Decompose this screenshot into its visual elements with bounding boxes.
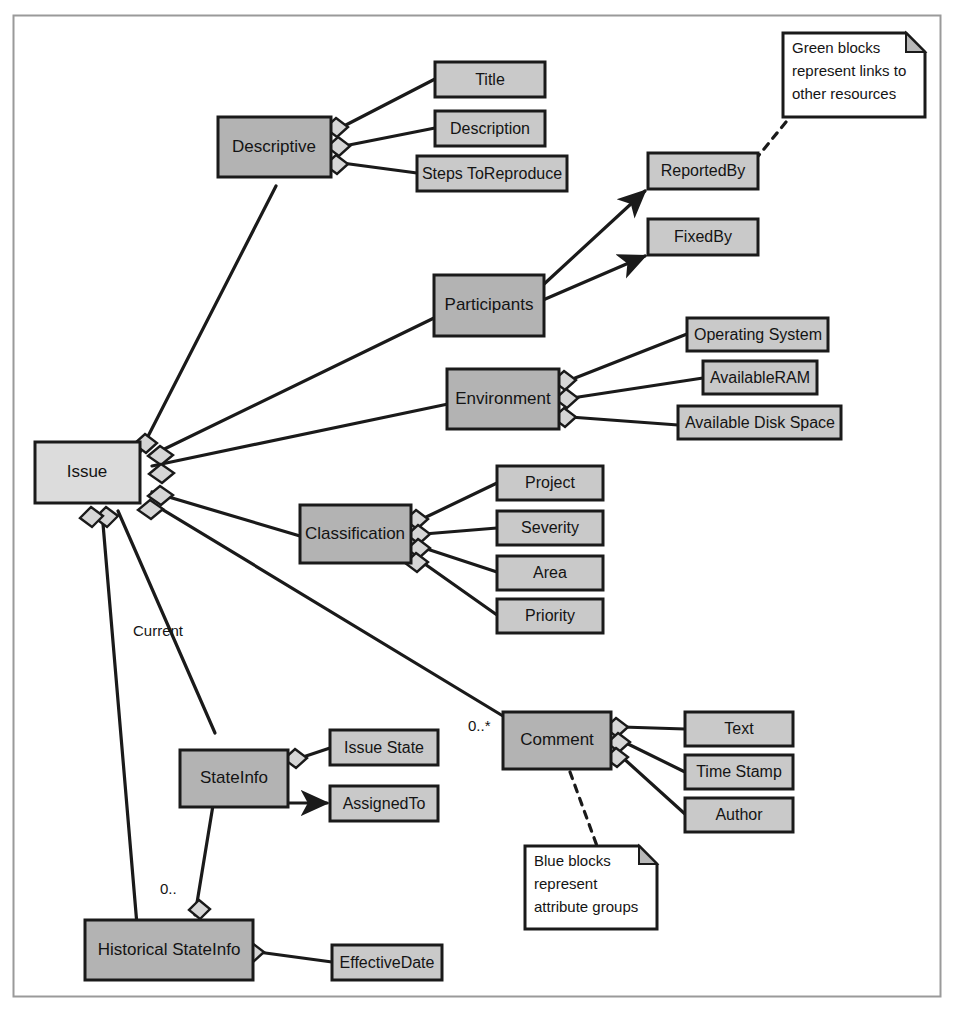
node-descriptive-label: Descriptive (232, 137, 316, 156)
attr-text-label: Text (724, 720, 754, 737)
note-green-line-3: other resources (792, 85, 896, 102)
node-historical-stateinfo[interactable]: Historical StateInfo (85, 920, 253, 980)
node-comment[interactable]: Comment (503, 712, 611, 769)
note-green[interactable]: Green blocks represent links to other re… (783, 33, 925, 117)
attr-effective-date[interactable]: EffectiveDate (332, 945, 442, 980)
attr-area-label: Area (533, 564, 567, 581)
link-assignedto-label: AssignedTo (343, 795, 426, 812)
note-green-line-1: Green blocks (792, 39, 880, 56)
edge-comment-text (622, 727, 685, 729)
attr-area[interactable]: Area (497, 556, 603, 590)
node-classification-label: Classification (305, 524, 405, 543)
note-blue-line-2: represent (534, 875, 598, 892)
attr-available-disk-space[interactable]: Available Disk Space (678, 406, 841, 439)
attr-text[interactable]: Text (685, 712, 793, 746)
attr-operating-system-label: Operating System (694, 326, 822, 343)
label-zero-to-many: 0..* (468, 717, 491, 734)
note-blue[interactable]: Blue blocks represent attribute groups (525, 846, 657, 929)
attr-time-stamp-label: Time Stamp (696, 763, 782, 780)
attr-title[interactable]: Title (435, 62, 545, 97)
attr-issue-state-label: Issue State (344, 739, 424, 756)
attr-priority[interactable]: Priority (497, 599, 603, 633)
attr-time-stamp[interactable]: Time Stamp (685, 755, 793, 789)
link-assignedto[interactable]: AssignedTo (330, 786, 438, 821)
attr-steps-to-reproduce[interactable]: Steps ToReproduce (417, 156, 567, 191)
node-participants-label: Participants (445, 295, 534, 314)
diagram-svg: Issue Descriptive Participants Environme… (0, 0, 954, 1013)
attr-available-disk-space-label: Available Disk Space (685, 414, 835, 431)
attr-available-ram-label: AvailableRAM (710, 369, 810, 386)
link-fixedby[interactable]: FixedBy (648, 219, 758, 255)
attr-title-label: Title (475, 71, 505, 88)
node-descriptive[interactable]: Descriptive (218, 117, 331, 177)
note-blue-line-1: Blue blocks (534, 852, 611, 869)
attr-issue-state[interactable]: Issue State (330, 730, 438, 765)
attr-author[interactable]: Author (685, 798, 793, 832)
attr-description-label: Description (450, 120, 530, 137)
attr-effective-date-label: EffectiveDate (340, 954, 435, 971)
link-reportedby[interactable]: ReportedBy (648, 153, 758, 189)
attr-author-label: Author (715, 806, 763, 823)
link-fixedby-label: FixedBy (674, 228, 732, 245)
attr-steps-to-reproduce-label: Steps ToReproduce (422, 165, 562, 182)
label-zero-dot: 0.. (160, 880, 177, 897)
node-participants[interactable]: Participants (434, 275, 544, 336)
attr-priority-label: Priority (525, 607, 575, 624)
attr-severity-label: Severity (521, 519, 579, 536)
label-current: Current (133, 622, 184, 639)
node-stateinfo[interactable]: StateInfo (180, 750, 288, 807)
note-blue-line-3: attribute groups (534, 898, 638, 915)
node-classification[interactable]: Classification (300, 505, 411, 563)
node-issue-label: Issue (67, 462, 108, 481)
note-green-line-2: represent links to (792, 62, 906, 79)
attr-severity[interactable]: Severity (497, 511, 603, 545)
node-issue[interactable]: Issue (35, 442, 140, 503)
node-environment[interactable]: Environment (447, 369, 559, 429)
attr-operating-system[interactable]: Operating System (687, 318, 828, 351)
attr-available-ram[interactable]: AvailableRAM (703, 361, 817, 394)
node-historical-stateinfo-label: Historical StateInfo (98, 940, 241, 959)
node-environment-label: Environment (455, 389, 551, 408)
attr-project-label: Project (525, 474, 575, 491)
attr-project[interactable]: Project (497, 466, 603, 500)
node-comment-label: Comment (520, 730, 594, 749)
attr-description[interactable]: Description (435, 111, 545, 146)
uml-diagram-canvas: Issue Descriptive Participants Environme… (0, 0, 954, 1013)
node-stateinfo-label: StateInfo (200, 768, 268, 787)
link-reportedby-label: ReportedBy (661, 162, 746, 179)
